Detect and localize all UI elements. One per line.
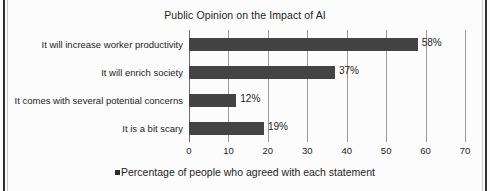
chart-title: Public Opinion on the Impact of AI	[0, 9, 490, 21]
x-axis-tick-label: 70	[450, 145, 480, 156]
x-axis-tick-label: 40	[332, 145, 362, 156]
bar-row: 12%	[189, 94, 465, 107]
bar	[189, 122, 264, 135]
plot-area: 58%37%12%19%	[189, 30, 465, 142]
legend-label: Percentage of people who agreed with eac…	[121, 166, 375, 178]
x-axis-tick-label: 0	[174, 145, 204, 156]
category-label: It will increase worker productivity	[42, 39, 184, 50]
bar-row: 58%	[189, 38, 465, 51]
gridline	[465, 30, 466, 142]
bar-value-label: 19%	[268, 121, 288, 132]
category-label: It comes with several potential concerns	[15, 95, 183, 106]
category-label: It will enrich society	[101, 67, 183, 78]
bar-value-label: 58%	[422, 37, 442, 48]
bar-row: 19%	[189, 122, 465, 135]
bar-value-label: 37%	[339, 65, 359, 76]
bar-row: 37%	[189, 66, 465, 79]
legend-marker-icon	[115, 170, 120, 175]
chart-legend: Percentage of people who agreed with eac…	[0, 162, 490, 180]
bar	[189, 66, 335, 79]
bar-value-label: 12%	[240, 93, 260, 104]
bar	[189, 94, 236, 107]
x-axis-tick-label: 60	[411, 145, 441, 156]
category-label: It is a bit scary	[122, 123, 183, 134]
x-axis-tick-label: 30	[292, 145, 322, 156]
bar	[189, 38, 418, 51]
x-axis-tick-label: 10	[213, 145, 243, 156]
x-axis-tick-label: 50	[371, 145, 401, 156]
x-axis-tick-label: 20	[253, 145, 283, 156]
bar-chart-figure: Public Opinion on the Impact of AI It wi…	[0, 0, 490, 191]
